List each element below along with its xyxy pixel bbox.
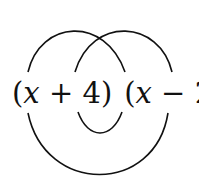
arc-last: [75, 31, 172, 72]
variable: x: [136, 76, 152, 110]
factor-2: (x − 2): [124, 76, 199, 110]
paren: ): [101, 76, 112, 110]
arc-outer: [28, 113, 168, 175]
paren: (: [12, 76, 23, 110]
constant: 2: [195, 76, 199, 110]
foil-diagram: (x + 4)(x − 2): [0, 0, 199, 188]
arc-inner: [78, 112, 122, 133]
constant: 4: [82, 76, 100, 110]
factor-1: (x + 4): [12, 76, 112, 110]
variable: x: [23, 76, 39, 110]
operator: −: [152, 76, 195, 110]
paren: (: [124, 76, 135, 110]
operator: +: [40, 76, 83, 110]
expression: (x + 4)(x − 2): [12, 76, 199, 110]
